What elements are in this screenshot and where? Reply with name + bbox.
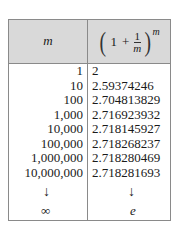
table-header: m ( 1 + 1 m ) m — [9, 20, 170, 64]
cell-value: 2.718145927 — [92, 122, 160, 137]
formula-plus: + — [122, 34, 129, 50]
cell-m: 1 — [77, 64, 84, 79]
cell-m: 1,000 — [54, 108, 83, 123]
cell-m: 1,000,000 — [31, 151, 83, 166]
infinity-symbol: ∞ — [41, 203, 50, 219]
table-row: 1,000,0002.718280469 — [9, 151, 170, 166]
cell-m: 10,000,000 — [25, 166, 84, 181]
cell-value: 2.718280469 — [92, 151, 160, 166]
table-row: 10,000,0002.718281693 — [9, 166, 170, 181]
table-row: 100,0002.718268237 — [9, 137, 170, 152]
arrow-down-icon: ↓ — [128, 184, 135, 200]
table-row: 12 — [9, 64, 170, 79]
cell-value: 2.718268237 — [92, 137, 160, 152]
limit-table: m ( 1 + 1 m ) m 12 102.59374246 1002.704… — [8, 19, 171, 221]
cell-value: 2.59374246 — [92, 79, 154, 94]
formula-one: 1 — [110, 34, 117, 50]
table-body: 12 102.59374246 1002.704813829 1,0002.71… — [9, 64, 170, 180]
header-formula: ( 1 + 1 m ) m — [88, 24, 170, 60]
cell-value: 2.716923932 — [92, 108, 160, 123]
close-paren: ) — [145, 28, 152, 56]
table-row: 10,0002.718145927 — [9, 122, 170, 137]
fraction-numerator: 1 — [134, 31, 142, 43]
cell-value: 2.704813829 — [92, 93, 160, 108]
cell-m: 100,000 — [41, 137, 83, 152]
arrow-down-icon: ↓ — [43, 184, 50, 200]
exponent: m — [153, 26, 160, 37]
header-m: m — [9, 33, 87, 49]
table-row: 102.59374246 — [9, 79, 170, 94]
fraction: 1 m — [133, 31, 141, 54]
open-paren: ( — [100, 28, 107, 56]
euler-e: e — [130, 203, 136, 219]
table-row: 1,0002.716923932 — [9, 108, 170, 123]
cell-value: 2.718281693 — [92, 166, 160, 181]
cell-m: 10 — [70, 79, 83, 94]
cell-m: 10,000 — [47, 122, 83, 137]
table-row: 1002.704813829 — [9, 93, 170, 108]
fraction-denominator: m — [133, 43, 141, 54]
cell-m: 100 — [64, 93, 84, 108]
cell-value: 2 — [92, 64, 99, 79]
